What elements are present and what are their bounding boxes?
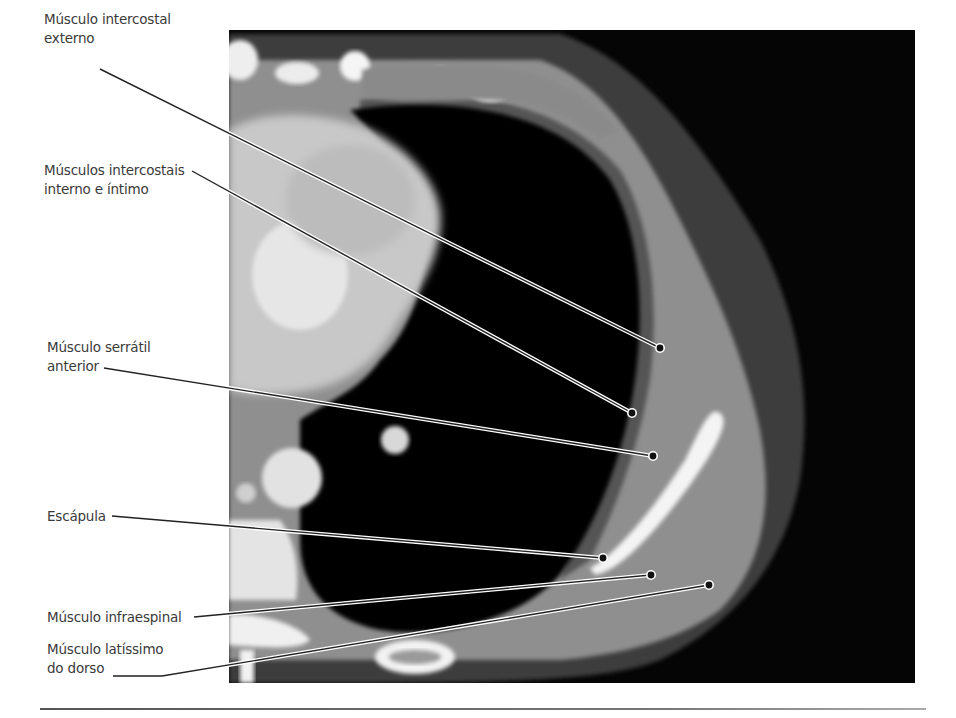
label-intercostal-externo: Músculo intercostalexterno bbox=[44, 10, 171, 48]
label-text: Músculo intercostal bbox=[44, 10, 171, 29]
descending-aorta bbox=[262, 448, 322, 508]
leader-endpoint-dot bbox=[629, 410, 636, 417]
label-text: Músculo infraespinal bbox=[47, 608, 182, 627]
leader-endpoint-dot bbox=[648, 572, 655, 579]
azygos-vein bbox=[236, 483, 256, 503]
label-infraespinal: Músculo infraespinal bbox=[47, 608, 182, 627]
label-text: Músculos intercostais bbox=[44, 161, 185, 180]
leader-endpoint-dot bbox=[650, 453, 657, 460]
label-escapula: Escápula bbox=[47, 507, 106, 526]
heart-chamber bbox=[285, 145, 415, 255]
label-text: externo bbox=[44, 29, 171, 48]
label-text: Músculo serrátil bbox=[47, 338, 151, 357]
label-text: Escápula bbox=[47, 507, 106, 526]
label-text: interno e íntimo bbox=[44, 180, 185, 199]
bottom-rule bbox=[40, 708, 926, 710]
anterior-rib-1 bbox=[222, 40, 258, 80]
leader-endpoint-dot bbox=[600, 555, 607, 562]
anterior-rib-2 bbox=[275, 62, 319, 84]
label-text: anterior bbox=[47, 357, 151, 376]
label-text: Músculo latíssimo bbox=[47, 640, 163, 659]
leader-endpoint-dot bbox=[706, 582, 713, 589]
label-intercostais-interno-intimo: Músculos intercostaisinterno e íntimo bbox=[44, 161, 185, 199]
label-serratil-anterior: Músculo serrátilanterior bbox=[47, 338, 151, 376]
leader-endpoint-dot bbox=[657, 345, 664, 352]
label-text: do dorso bbox=[47, 659, 163, 678]
vessel-small bbox=[381, 426, 409, 454]
label-latissimo-dorso: Músculo latíssimodo dorso bbox=[47, 640, 163, 678]
spinous-process bbox=[240, 650, 254, 683]
